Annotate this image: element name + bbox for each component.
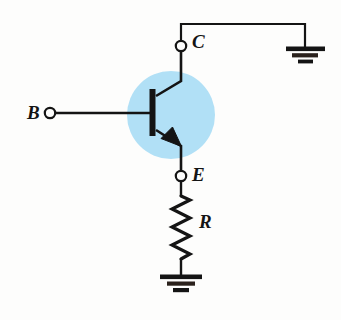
collector-label: C	[192, 32, 205, 51]
base-label: B	[27, 103, 40, 122]
emitter-resistor-zigzag	[172, 196, 190, 259]
circuit-schematic	[0, 0, 341, 320]
emitter-label: E	[192, 165, 205, 184]
emitter-ground-icon	[160, 275, 202, 293]
resistor-label: R	[199, 212, 212, 231]
emitter-terminal-node[interactable]	[176, 171, 186, 181]
transistor-base-bar	[150, 89, 156, 136]
collector-terminal-node[interactable]	[176, 41, 186, 51]
circuit-diagram-figure: B C E R	[0, 0, 341, 320]
transistor-highlight-circle	[127, 71, 215, 159]
base-terminal-node[interactable]	[45, 108, 55, 118]
collector-ground-icon	[286, 47, 325, 64]
